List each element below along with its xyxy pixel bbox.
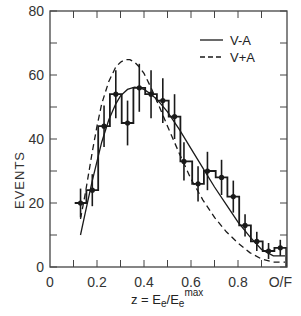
- legend-label-v-minus-a: V-A: [230, 33, 251, 48]
- x-tick-label: O/F: [269, 274, 292, 290]
- y-tick-label: 0: [36, 259, 44, 275]
- legend-label-v-plus-a: V+A: [230, 50, 255, 65]
- data-point: [137, 85, 142, 90]
- x-tick-label: 0.4: [134, 274, 154, 290]
- y-tick-label: 40: [28, 131, 44, 147]
- y-tick-label: 80: [28, 3, 44, 19]
- event-spectrum-chart: 020406080 00.20.40.60.8O/F EVENTS V-A V+…: [0, 0, 301, 316]
- data-point: [205, 168, 210, 173]
- data-point: [254, 239, 259, 244]
- x-tick-label: 0.8: [228, 274, 248, 290]
- data-point: [160, 98, 165, 103]
- data-point: [101, 124, 106, 129]
- background: [0, 0, 301, 316]
- data-point: [219, 175, 224, 180]
- data-point: [125, 120, 130, 125]
- data-point: [195, 181, 200, 186]
- data-point: [181, 159, 186, 164]
- x-label-sub2: e: [179, 298, 185, 309]
- data-point: [78, 200, 83, 205]
- data-point: [148, 92, 153, 97]
- data-point: [266, 248, 271, 253]
- y-tick-label: 20: [28, 195, 44, 211]
- data-point: [113, 92, 118, 97]
- x-label-prefix: z = E: [131, 292, 161, 307]
- data-point: [231, 194, 236, 199]
- y-axis-label: EVENTS: [12, 151, 27, 209]
- x-label-sup: max: [184, 287, 203, 298]
- x-tick-label: 0.2: [87, 274, 107, 290]
- y-tick-label: 60: [28, 67, 44, 83]
- data-point: [278, 245, 283, 250]
- data-point: [172, 114, 177, 119]
- x-tick-label: 0: [46, 274, 54, 290]
- data-point: [242, 223, 247, 228]
- data-point: [90, 188, 95, 193]
- x-label-slash: /E: [167, 292, 180, 307]
